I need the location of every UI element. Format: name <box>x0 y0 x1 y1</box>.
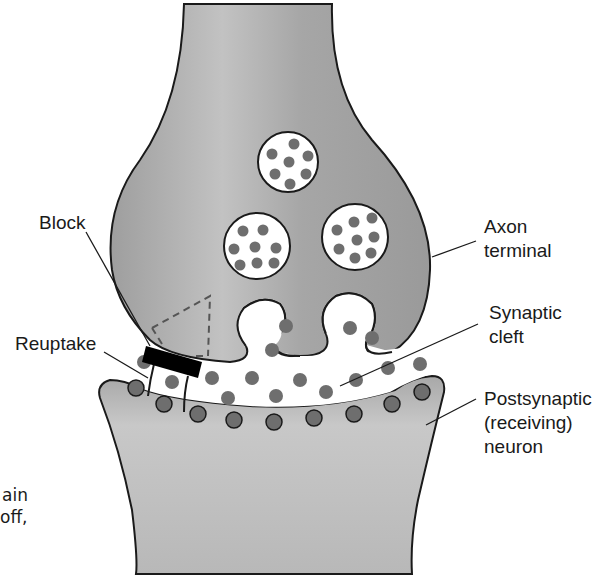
cut-off-text-1: ain <box>2 484 28 506</box>
label-axon-terminal-2: terminal <box>484 240 552 262</box>
synapse-diagram <box>0 0 610 584</box>
vesicle-left <box>224 213 290 279</box>
cut-off-text-2: off, <box>0 506 28 528</box>
label-reuptake: Reuptake <box>15 333 96 355</box>
label-synaptic-cleft-1: Synaptic <box>489 302 562 324</box>
label-postsynaptic-2: (receiving) <box>484 412 573 434</box>
vesicle-right <box>322 204 388 270</box>
label-axon-terminal-1: Axon <box>484 216 527 238</box>
label-postsynaptic-1: Postsynaptic <box>484 388 592 410</box>
label-postsynaptic-3: neuron <box>484 436 543 458</box>
label-block: Block <box>39 212 85 234</box>
vesicle-top <box>258 132 318 192</box>
leader-axon-terminal <box>432 241 476 257</box>
label-synaptic-cleft-2: cleft <box>489 326 524 348</box>
